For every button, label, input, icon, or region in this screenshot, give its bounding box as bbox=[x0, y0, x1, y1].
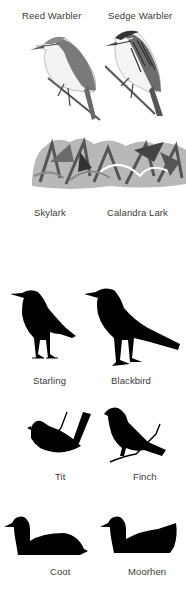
larks-grass-illustration bbox=[30, 132, 186, 194]
label-skylark: Skylark bbox=[34, 207, 66, 218]
blackbird-silhouette bbox=[84, 286, 180, 368]
sedge-warbler-illustration bbox=[105, 26, 165, 118]
starling-silhouette bbox=[10, 288, 76, 362]
label-tit: Tit bbox=[55, 471, 66, 482]
tit-silhouette bbox=[27, 408, 95, 456]
label-blackbird: Blackbird bbox=[111, 375, 151, 386]
finch-silhouette bbox=[104, 406, 168, 464]
moorhen-silhouette bbox=[100, 515, 178, 555]
label-moorhen: Moorhen bbox=[128, 566, 166, 577]
label-coot: Coot bbox=[50, 566, 70, 577]
label-finch: Finch bbox=[133, 471, 157, 482]
coot-silhouette bbox=[4, 515, 88, 557]
reed-warbler-illustration bbox=[30, 30, 105, 122]
label-starling: Starling bbox=[33, 375, 66, 386]
label-reed-warbler: Reed Warbler bbox=[22, 10, 81, 21]
label-sedge-warbler: Sedge Warbler bbox=[108, 10, 172, 21]
label-calandra-lark: Calandra Lark bbox=[107, 207, 168, 218]
